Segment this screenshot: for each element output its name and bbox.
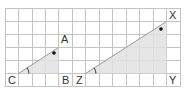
label-x: X <box>169 9 177 21</box>
label-b: B <box>62 74 69 86</box>
point-dot-a <box>52 51 56 55</box>
similar-triangles-diagram: A C B Z X Y <box>0 0 185 88</box>
label-c: C <box>8 74 16 86</box>
label-y: Y <box>169 74 177 86</box>
label-z: Z <box>76 74 83 86</box>
point-dot-x <box>159 27 163 31</box>
label-a: A <box>61 33 69 45</box>
